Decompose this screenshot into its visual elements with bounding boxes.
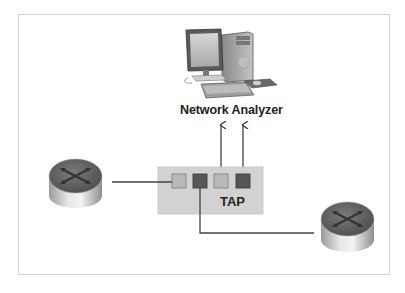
tap-port-4 [236,174,250,188]
desktop-computer-icon [185,29,277,98]
tap-port-1 [172,174,186,188]
tap-label: TAP [220,194,245,209]
tap-port-2 [193,174,207,188]
network-diagram [0,0,405,293]
tap-device [158,167,263,214]
network-analyzer-label: Network Analyzer [180,103,283,117]
tap-port-3 [214,174,228,188]
router-icon [49,159,102,208]
router-icon [321,202,374,252]
